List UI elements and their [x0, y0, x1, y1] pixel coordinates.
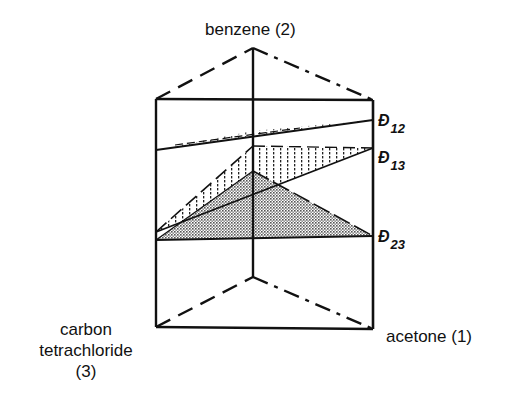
vertex-label-line2: tetrachloride: [39, 341, 133, 360]
prism-diagram: benzene (2) acetone (1) carbon tetrachlo…: [0, 0, 511, 412]
top-right-dashdot-edge: [253, 48, 373, 100]
plane-symbol: Đ: [378, 228, 390, 245]
bottom-right-dashdot-edge: [253, 277, 373, 329]
vertex-label-benzene: benzene (2): [205, 21, 296, 38]
bottom-front-edge: [156, 327, 373, 329]
plane-label-d12: Đ12: [378, 113, 405, 129]
plane-subscript: 12: [391, 121, 405, 136]
top-front-edge: [156, 99, 373, 100]
vertex-label-acetone: acetone (1): [386, 328, 472, 345]
plane-label-d13: Đ13: [378, 150, 405, 166]
plane-symbol: Đ: [378, 112, 390, 129]
top-left-dashed-edge: [156, 48, 253, 99]
plane-subscript: 23: [391, 237, 405, 252]
plane-label-d23: Đ23: [378, 229, 405, 245]
plane-symbol: Đ: [378, 149, 390, 166]
vertex-label-line1: carbon: [60, 320, 112, 339]
vertex-label-carbon-tetrachloride: carbon tetrachloride (3): [8, 319, 164, 382]
bottom-left-dashed-edge: [156, 277, 253, 327]
plane-subscript: 13: [391, 158, 405, 173]
vertex-label-line3: (3): [76, 362, 97, 381]
